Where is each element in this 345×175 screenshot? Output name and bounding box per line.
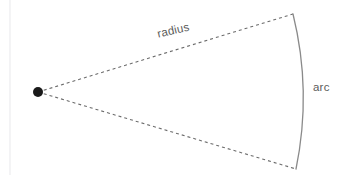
vertex-dot <box>33 87 43 97</box>
lower-radius-line <box>38 92 296 169</box>
diagram-canvas: radius arc <box>0 0 345 175</box>
arc-curve <box>293 14 303 169</box>
arc-label: arc <box>313 81 330 93</box>
